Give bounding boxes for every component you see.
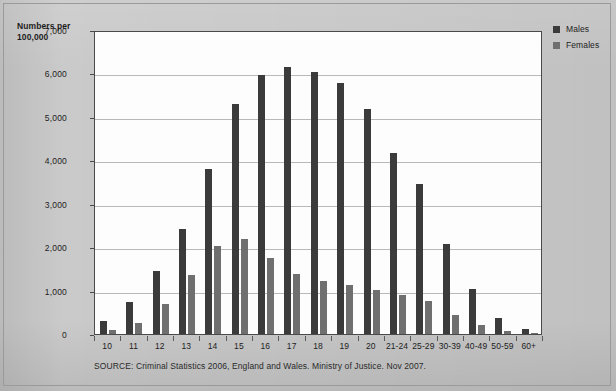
legend-swatch-females — [553, 42, 560, 49]
bar-males[interactable] — [416, 184, 423, 334]
x-axis-tick-label: 18 — [313, 341, 323, 351]
bar-group[interactable] — [385, 32, 411, 334]
bar-group[interactable] — [200, 32, 226, 334]
bar-females[interactable] — [452, 315, 459, 334]
legend-item[interactable]: Females — [553, 40, 599, 50]
x-axis-tick-label: 40-49 — [465, 341, 487, 351]
bar-females[interactable] — [241, 239, 248, 334]
x-axis-tick-label: 60+ — [521, 341, 536, 351]
x-axis-tick — [516, 336, 517, 341]
x-axis-tick-label: 11 — [129, 341, 138, 351]
x-axis-tick-label: 10 — [102, 341, 112, 351]
x-axis-tick-label: 16 — [260, 341, 270, 351]
y-axis-tick-label: 1,000 — [23, 287, 67, 297]
bar-group[interactable] — [438, 32, 464, 334]
bar-females[interactable] — [293, 274, 300, 334]
bar-males[interactable] — [390, 153, 397, 334]
x-axis-tick — [147, 336, 148, 341]
legend-item-label: Males — [566, 24, 589, 34]
bar-group[interactable] — [227, 32, 253, 334]
bar-males[interactable] — [100, 321, 107, 334]
bar-males[interactable] — [205, 169, 212, 334]
bar-males[interactable] — [364, 109, 371, 334]
bar-males[interactable] — [522, 329, 529, 334]
bar-group[interactable] — [95, 32, 121, 334]
bar-females[interactable] — [320, 281, 327, 334]
x-axis-tick-label: 50-59 — [491, 341, 513, 351]
y-axis-tick-label: 7,000 — [23, 26, 67, 36]
bar-males[interactable] — [153, 271, 160, 334]
bar-males[interactable] — [284, 67, 291, 334]
x-axis-tick — [489, 336, 490, 341]
bar-group[interactable] — [517, 32, 542, 334]
bar-females[interactable] — [162, 304, 169, 334]
bar-females[interactable] — [267, 258, 274, 334]
x-axis-tick — [305, 336, 306, 341]
bar-males[interactable] — [311, 72, 318, 334]
bar-males[interactable] — [337, 83, 344, 334]
x-axis-tick — [278, 336, 279, 341]
bar-females[interactable] — [135, 323, 142, 334]
bar-females[interactable] — [346, 285, 353, 334]
bar-males[interactable] — [258, 75, 265, 334]
chart-plot-area — [94, 31, 542, 335]
x-axis-tick-label: 12 — [155, 341, 165, 351]
y-axis-tick-label: 2,000 — [23, 243, 67, 253]
y-axis-tick-label: 4,000 — [23, 156, 67, 166]
bar-females[interactable] — [214, 246, 221, 334]
chart-legend: MalesFemales — [553, 24, 599, 56]
bar-males[interactable] — [443, 244, 450, 334]
bar-females[interactable] — [373, 290, 380, 334]
legend-item[interactable]: Males — [553, 24, 599, 34]
bar-males[interactable] — [469, 289, 476, 334]
bar-group[interactable] — [332, 32, 358, 334]
bar-males[interactable] — [232, 104, 239, 334]
bar-females[interactable] — [399, 295, 406, 334]
x-axis-tick — [437, 336, 438, 341]
x-axis-tick-label: 20 — [366, 341, 376, 351]
bar-group[interactable] — [279, 32, 305, 334]
x-axis-tick — [94, 336, 95, 341]
bar-group[interactable] — [359, 32, 385, 334]
source-note: SOURCE: Criminal Statistics 2006, Englan… — [94, 361, 426, 371]
x-axis-tick-label: 21-24 — [386, 341, 408, 351]
x-axis-tick — [173, 336, 174, 341]
chart-plot-wrapper — [94, 31, 542, 335]
x-axis-tick-label: 17 — [287, 341, 297, 351]
bar-males[interactable] — [179, 229, 186, 334]
bar-females[interactable] — [109, 330, 116, 334]
bar-group[interactable] — [253, 32, 279, 334]
bar-females[interactable] — [531, 333, 538, 334]
x-axis-tick — [358, 336, 359, 341]
x-axis-tick — [463, 336, 464, 341]
bar-females[interactable] — [188, 275, 195, 334]
bar-series-layer — [95, 32, 541, 334]
x-axis-tick — [542, 336, 543, 341]
x-axis-tick — [199, 336, 200, 341]
bar-males[interactable] — [495, 318, 502, 335]
bar-group[interactable] — [121, 32, 147, 334]
x-axis-tick — [331, 336, 332, 341]
legend-item-label: Females — [566, 40, 599, 50]
y-axis-tick-label: 5,000 — [23, 113, 67, 123]
x-axis-tick-label: 13 — [181, 341, 191, 351]
y-axis-tick-label: 6,000 — [23, 69, 67, 79]
x-axis-tick-label: 30-39 — [439, 341, 461, 351]
bar-group[interactable] — [411, 32, 437, 334]
x-axis-tick — [226, 336, 227, 341]
y-axis-tick-label: 0 — [23, 330, 67, 340]
bar-females[interactable] — [425, 301, 432, 334]
bar-group[interactable] — [490, 32, 516, 334]
x-axis-tick — [252, 336, 253, 341]
bar-group[interactable] — [464, 32, 490, 334]
x-axis-tick — [120, 336, 121, 341]
legend-swatch-males — [553, 26, 560, 33]
bar-group[interactable] — [306, 32, 332, 334]
x-axis-tick-label: 19 — [340, 341, 350, 351]
bar-females[interactable] — [478, 325, 485, 334]
x-axis-tick-label: 25-29 — [412, 341, 434, 351]
bar-males[interactable] — [126, 302, 133, 334]
bar-group[interactable] — [174, 32, 200, 334]
bar-females[interactable] — [504, 331, 511, 334]
bar-group[interactable] — [148, 32, 174, 334]
